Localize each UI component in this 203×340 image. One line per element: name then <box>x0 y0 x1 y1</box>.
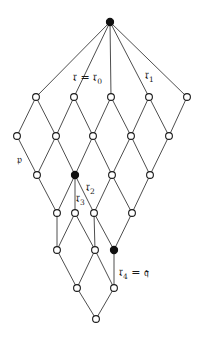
edge-a3-b3 <box>93 97 111 136</box>
node-c4 <box>147 172 154 179</box>
node-b2 <box>53 133 60 140</box>
edge-a5-b5 <box>169 97 187 136</box>
node-c1 <box>34 172 41 179</box>
lattice-diagram: 𝔯 = 𝔯0 𝔯1 𝔭 𝔯2 𝔯3 𝔯4 = 𝔮 <box>0 0 203 340</box>
node-a5 <box>184 94 191 101</box>
node-d1 <box>54 210 61 217</box>
edge-a1-b2 <box>36 97 56 136</box>
edge-f2-bottom <box>96 288 114 319</box>
node-e1 <box>54 247 61 254</box>
node-d3 <box>91 210 98 217</box>
edge-a2-b3 <box>74 97 93 136</box>
edge-a1-b1 <box>17 97 36 136</box>
edge-c4-d4 <box>132 175 150 213</box>
edge-c1-d1 <box>37 175 57 213</box>
edge-top-a5 <box>110 22 187 97</box>
edge-e2-f2 <box>95 250 114 288</box>
edge-d3-e2 <box>94 213 95 250</box>
edge-b3-c2 <box>75 136 93 175</box>
node-a1 <box>33 94 40 101</box>
edge-top-a1 <box>36 22 110 97</box>
edge-b4-c3 <box>112 136 131 175</box>
node-e2 <box>92 247 99 254</box>
node-a3 <box>108 94 115 101</box>
edge-b5-c4 <box>150 136 169 175</box>
edge-d2-e2 <box>75 213 95 250</box>
node-b5 <box>166 133 173 140</box>
node-bottom <box>93 316 100 323</box>
edge-e1-f1 <box>57 250 77 288</box>
edge-d2-e1 <box>57 213 75 250</box>
edge-top-a4 <box>110 22 149 97</box>
label-r3: 𝔯3 <box>76 192 85 207</box>
node-f1 <box>74 285 81 292</box>
node-e3 <box>110 246 117 253</box>
label-r4-equals-q: 𝔯4 = 𝔮 <box>119 266 149 281</box>
node-d2 <box>72 210 79 217</box>
edge-a4-b4 <box>131 97 149 136</box>
edge-a4-b5 <box>149 97 169 136</box>
edge-d3-e3 <box>94 213 114 250</box>
nodes-group <box>14 18 191 322</box>
edge-top-a2 <box>74 22 110 97</box>
edge-top-a3 <box>110 22 111 97</box>
node-b1 <box>14 133 21 140</box>
label-r-equals-r0: 𝔯 = 𝔯0 <box>73 71 102 86</box>
node-c3 <box>109 172 116 179</box>
edge-a3-b4 <box>111 97 131 136</box>
edge-c3-d4 <box>112 175 132 213</box>
edge-f1-bottom <box>77 288 96 319</box>
edge-b2-c1 <box>37 136 56 175</box>
node-b4 <box>128 133 135 140</box>
edge-c3-d3 <box>94 175 112 213</box>
edge-b2-c2 <box>56 136 75 175</box>
edge-b3-c3 <box>93 136 112 175</box>
edge-b4-c4 <box>131 136 150 175</box>
edge-d4-e3 <box>114 213 132 250</box>
edge-e2-f1 <box>77 250 95 288</box>
label-p: 𝔭 <box>17 153 22 166</box>
edges-group <box>17 22 187 319</box>
node-b3 <box>90 133 97 140</box>
edge-c2-d1 <box>57 175 75 213</box>
node-a2 <box>71 94 78 101</box>
label-r1: 𝔯1 <box>145 69 154 84</box>
label-r2: 𝔯2 <box>86 181 95 196</box>
node-f2 <box>111 285 118 292</box>
node-a4 <box>146 94 153 101</box>
node-c2 <box>71 171 78 178</box>
node-d4 <box>129 210 136 217</box>
node-top <box>106 18 113 25</box>
edge-a2-b2 <box>56 97 74 136</box>
